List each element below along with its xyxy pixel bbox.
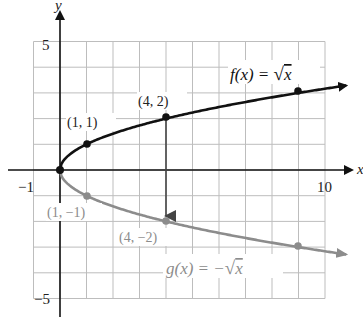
g-point-1-neg1 — [83, 192, 91, 200]
tick-label-x-10: 10 — [317, 179, 332, 195]
x-axis-label: x — [356, 161, 363, 177]
f-point-label-4-2: (4, 2) — [138, 94, 169, 110]
f-function-label: f(x) = √x — [230, 63, 292, 84]
g-point-label-1-neg1: (1, −1) — [47, 205, 86, 221]
tick-label-y-neg5: −5 — [34, 291, 50, 307]
f-point-1-1 — [83, 140, 91, 148]
g-point-label-4-neg2: (4, −2) — [119, 230, 158, 246]
f-point-label-1-1: (1, 1) — [67, 115, 98, 131]
graph: x y 5 −5 −1 10 (1, 1) (4, 2) (1, −1) (4,… — [0, 0, 363, 317]
g-point-4-neg2 — [162, 217, 170, 225]
g-point-9-neg3 — [294, 242, 302, 250]
tick-label-x-neg1: −1 — [18, 179, 34, 195]
g-function-label: g(x) = −√x — [166, 257, 243, 278]
origin-point — [56, 166, 64, 174]
g-curve — [60, 170, 346, 254]
y-axis-label: y — [53, 0, 62, 13]
f-point-9-3 — [294, 87, 302, 95]
tick-label-y-5: 5 — [42, 37, 50, 53]
f-point-4-2 — [162, 113, 170, 121]
